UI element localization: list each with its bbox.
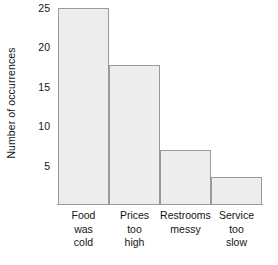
x-axis-category-label-line: too	[211, 223, 262, 237]
bar	[160, 150, 211, 205]
x-axis-category-label-line: messy	[160, 223, 211, 237]
x-axis-line	[57, 204, 263, 205]
x-axis-category-label-line: Prices	[109, 209, 160, 223]
y-axis-tick-label: 10	[38, 120, 50, 132]
x-axis-category-label-line: cold	[58, 236, 109, 250]
x-axis-category-label-line: slow	[211, 236, 262, 250]
y-axis-tick-label: 15	[38, 81, 50, 93]
y-axis-title: Number of occurrences	[0, 0, 22, 205]
bar-chart: Number of occurrences 510152025 Foodwasc…	[0, 0, 278, 265]
x-axis-category-label-line: was	[58, 223, 109, 237]
y-axis-title-text: Number of occurrences	[5, 47, 17, 158]
bar	[58, 8, 109, 205]
x-axis-category-label-line: Food	[58, 209, 109, 223]
y-axis-tick-label: 20	[38, 41, 50, 53]
x-axis-category-label: Servicetooslow	[211, 209, 262, 265]
bar	[211, 177, 262, 205]
x-axis-category-labels: FoodwascoldPricestoohighRestroomsmessySe…	[58, 209, 262, 265]
x-axis-category-label-line: Service	[211, 209, 262, 223]
x-axis-category-label-line: Restrooms	[160, 209, 211, 223]
y-axis-tick-labels: 510152025	[22, 0, 54, 265]
plot-area	[58, 0, 262, 205]
y-axis-tick-label: 5	[44, 160, 50, 172]
x-axis-category-label: Foodwascold	[58, 209, 109, 265]
bar	[109, 65, 160, 205]
bars-layer	[58, 0, 262, 205]
x-axis-category-label-line: high	[109, 236, 160, 250]
x-axis-category-label: Pricestoohigh	[109, 209, 160, 265]
x-axis-category-label-line: too	[109, 223, 160, 237]
y-axis-tick-label: 25	[38, 2, 50, 14]
x-axis-category-label: Restroomsmessy	[160, 209, 211, 265]
